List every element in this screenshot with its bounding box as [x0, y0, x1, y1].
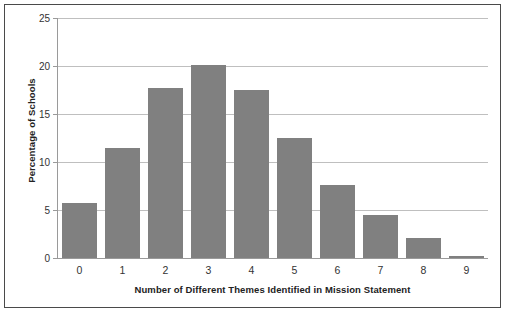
x-axis-title: Number of Different Themes Identified in…	[57, 284, 488, 295]
bar-slot: 0	[58, 18, 101, 258]
bar	[191, 65, 226, 258]
bar-slot: 3	[187, 18, 230, 258]
y-axis-title: Percentage of Schools	[26, 61, 37, 201]
y-tick-label: 15	[39, 109, 50, 120]
bar-slot: 8	[402, 18, 445, 258]
x-tick-label: 8	[402, 264, 445, 276]
bar	[320, 185, 355, 258]
x-tick-label: 0	[58, 264, 101, 276]
x-tick-label: 4	[230, 264, 273, 276]
y-tick-mark	[53, 210, 57, 211]
bar-slot: 4	[230, 18, 273, 258]
x-tick-label: 5	[273, 264, 316, 276]
bar-slot: 5	[273, 18, 316, 258]
bar-slot: 7	[359, 18, 402, 258]
x-tick-label: 9	[445, 264, 488, 276]
x-tick-label: 6	[316, 264, 359, 276]
y-tick-label: 0	[44, 253, 50, 264]
y-tick-label: 10	[39, 157, 50, 168]
bars-group: 0123456789	[58, 18, 488, 258]
bar	[105, 148, 140, 258]
bar	[449, 256, 484, 258]
plot-area: 0510152025 0123456789	[57, 18, 488, 258]
x-tick-label: 3	[187, 264, 230, 276]
x-tick-label: 2	[144, 264, 187, 276]
y-tick-label: 5	[44, 205, 50, 216]
x-tick-label: 7	[359, 264, 402, 276]
bar-slot: 6	[316, 18, 359, 258]
y-tick-mark	[53, 258, 57, 259]
bar	[62, 203, 97, 258]
y-tick-mark	[53, 114, 57, 115]
bar	[363, 215, 398, 258]
bar-slot: 9	[445, 18, 488, 258]
bar	[148, 88, 183, 258]
y-tick-mark	[53, 162, 57, 163]
bar-slot: 1	[101, 18, 144, 258]
y-tick-label: 25	[39, 13, 50, 24]
bar	[406, 238, 441, 258]
y-tick-label: 20	[39, 61, 50, 72]
figure-frame: Percentage of Schools 0510152025 0123456…	[4, 4, 501, 308]
bar-slot: 2	[144, 18, 187, 258]
bar-chart: Percentage of Schools 0510152025 0123456…	[5, 5, 502, 309]
gridline	[57, 258, 488, 259]
bar	[277, 138, 312, 258]
x-tick-label: 1	[101, 264, 144, 276]
y-tick-mark	[53, 66, 57, 67]
y-tick-mark	[53, 18, 57, 19]
bar	[234, 90, 269, 258]
